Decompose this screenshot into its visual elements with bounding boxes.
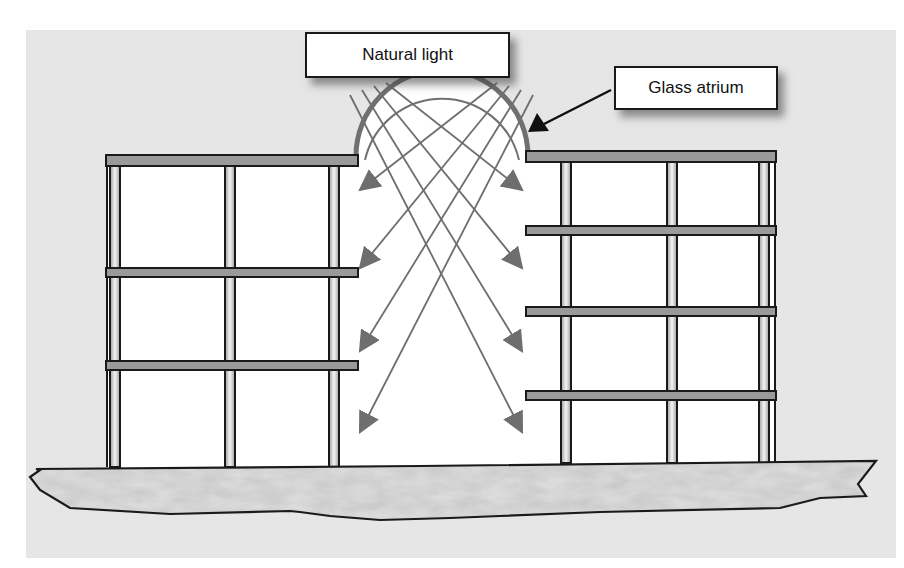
right-building-roof-slab: [526, 151, 776, 162]
left-building-floor-slab-2: [106, 361, 358, 370]
glass-atrium-text: Glass atrium: [648, 78, 743, 98]
right-building-floor-slab-3: [526, 391, 776, 400]
right-building-floor-slab-2: [526, 307, 776, 316]
diagram-root: Natural light Glass atrium: [0, 0, 904, 568]
natural-light-label: Natural light: [305, 32, 510, 78]
left-building-floor-slab-1: [106, 268, 358, 277]
glass-atrium-label: Glass atrium: [614, 66, 778, 110]
left-building-roof-slab: [106, 155, 358, 166]
left-building-column-2: [225, 166, 235, 467]
left-building-column-3: [329, 166, 339, 467]
natural-light-text: Natural light: [362, 45, 453, 65]
left-building-column-1: [110, 166, 120, 467]
right-building-floor-slab-1: [526, 226, 776, 235]
